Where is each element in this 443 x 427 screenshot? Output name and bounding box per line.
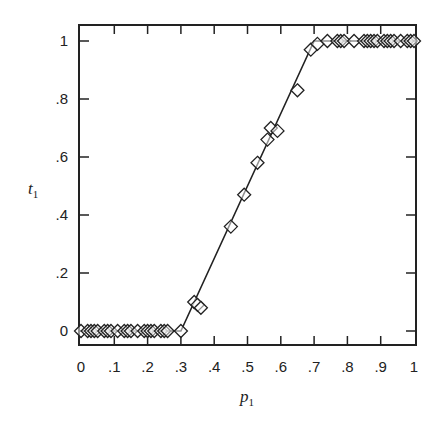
x-tick-label: .2	[141, 358, 154, 375]
x-tick-label: .8	[341, 358, 354, 375]
diamond-marker	[261, 133, 274, 146]
x-tick-label: .4	[208, 358, 221, 375]
diamond-marker	[251, 156, 264, 169]
x-tick-label: .9	[374, 358, 387, 375]
x-tick-label: .6	[275, 358, 288, 375]
diamond-marker	[238, 188, 251, 201]
x-tick-label: .5	[241, 358, 254, 375]
chart-canvas: 0.1.2.3.4.5.6.7.8.91 0.2.4.6.81 p1 t1	[0, 0, 443, 427]
y-tick-label: 1	[60, 32, 68, 49]
y-tick-label: .8	[55, 90, 68, 107]
x-tick-label: 0	[77, 358, 85, 375]
x-tick-label: 1	[410, 358, 418, 375]
y-tick-label: .4	[55, 206, 68, 223]
x-tick-label: .1	[108, 358, 121, 375]
x-tick-label: .3	[175, 358, 188, 375]
y-axis-label: t1	[28, 179, 38, 200]
y-tick-label: 0	[60, 322, 68, 339]
y-tick-label: .2	[55, 264, 68, 281]
x-axis-label: p1	[239, 387, 254, 408]
diamond-marker	[174, 325, 187, 338]
x-axis-tick-labels: 0.1.2.3.4.5.6.7.8.91	[77, 358, 418, 375]
y-axis-tick-labels: 0.2.4.6.81	[55, 32, 68, 339]
y-tick-label: .6	[55, 148, 68, 165]
x-tick-label: .7	[308, 358, 321, 375]
fit-line	[81, 41, 414, 331]
